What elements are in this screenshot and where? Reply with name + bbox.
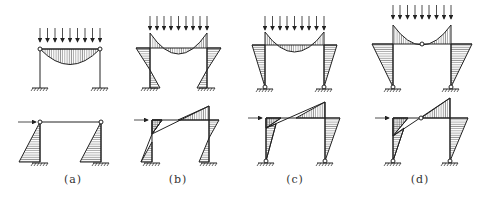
panel-label-d: (d) (411, 173, 430, 186)
panel-d-horizontal-load (375, 98, 468, 166)
panel-label-b: (b) (169, 173, 188, 186)
panel-a-vertical-load (31, 28, 108, 91)
panel-b-vertical-load (136, 16, 221, 91)
distributed-load-arrows (40, 28, 100, 42)
panel-c-horizontal-load (248, 102, 340, 166)
panel-c-vertical-load (252, 16, 337, 92)
panel-label-a: (a) (64, 173, 82, 186)
panel-label-c: (c) (286, 173, 304, 186)
panel-b-horizontal-load (134, 106, 219, 166)
panel-d-vertical-load (372, 5, 472, 92)
panel-a-horizontal-load (18, 120, 109, 166)
frame-moment-diagrams (0, 0, 485, 198)
